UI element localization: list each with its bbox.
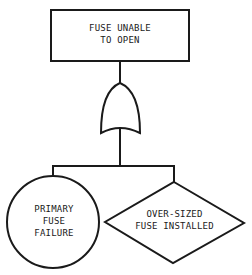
- basic-event-label: PRIMARY FUSE FAILURE: [8, 203, 100, 239]
- top-event-label: FUSE UNABLE TO OPEN: [51, 22, 189, 46]
- or-gate-icon: [101, 83, 140, 133]
- undeveloped-event-line-2: FUSE INSTALLED: [105, 220, 244, 232]
- basic-event-line-1: PRIMARY: [8, 203, 100, 215]
- basic-event-line-3: FAILURE: [8, 227, 100, 239]
- basic-event-line-2: FUSE: [8, 215, 100, 227]
- top-event-line-2: TO OPEN: [51, 34, 189, 46]
- undeveloped-event-label: OVER-SIZED FUSE INSTALLED: [105, 208, 244, 232]
- top-event-line-1: FUSE UNABLE: [51, 22, 189, 34]
- undeveloped-event-line-1: OVER-SIZED: [105, 208, 244, 220]
